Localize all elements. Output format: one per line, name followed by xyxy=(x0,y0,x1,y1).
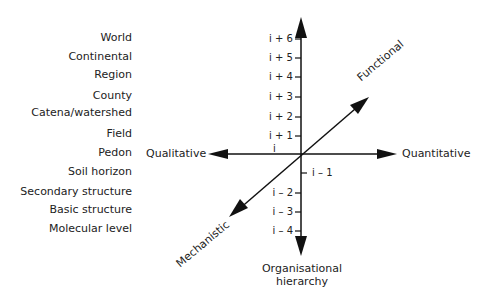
level-secondary-structure: Secondary structure xyxy=(20,186,132,198)
tick-i-plus-4: i + 4 xyxy=(269,71,293,83)
tick-i-minus-1: i – 1 xyxy=(312,167,333,179)
arrow-down-icon xyxy=(295,236,307,256)
axis-label-organisational: Organisational xyxy=(261,263,343,275)
level-catena: Catena/watershed xyxy=(31,107,132,119)
arrow-up-icon xyxy=(295,17,307,38)
axis-label-qualitative: Qualitative xyxy=(146,148,206,160)
level-molecular: Molecular level xyxy=(49,223,132,235)
level-county: County xyxy=(93,90,132,102)
tick-i-plus-1: i + 1 xyxy=(269,130,293,142)
arrow-left-icon xyxy=(208,149,228,159)
arrow-mechanistic-icon xyxy=(229,199,248,217)
level-field: Field xyxy=(107,128,132,140)
level-world: World xyxy=(100,32,132,44)
tick-i: i xyxy=(273,143,276,155)
tick-i-minus-3: i – 3 xyxy=(273,206,294,218)
tick-i-minus-4: i – 4 xyxy=(273,225,294,237)
tick-i-plus-3: i + 3 xyxy=(269,91,293,103)
level-basic-structure: Basic structure xyxy=(49,204,132,216)
level-continental: Continental xyxy=(68,51,132,63)
level-region: Region xyxy=(94,69,132,81)
tick-i-plus-6: i + 6 xyxy=(269,33,293,45)
tick-i-plus-5: i + 5 xyxy=(269,52,293,64)
tick-i-plus-2: i + 2 xyxy=(269,111,293,123)
tick-i-minus-2: i – 2 xyxy=(273,187,294,199)
axis-label-quantitative: Quantitative xyxy=(402,148,470,160)
axis-label-hierarchy: hierarchy xyxy=(261,276,343,288)
level-pedon: Pedon xyxy=(98,147,132,159)
arrow-right-icon xyxy=(377,149,397,159)
level-soil-horizon: Soil horizon xyxy=(68,166,132,178)
